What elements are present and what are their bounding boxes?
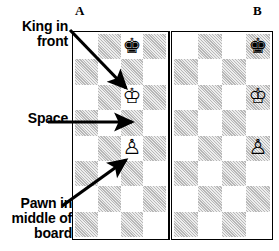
annotation-arrows <box>0 0 279 251</box>
arrow-pawn-middle <box>62 160 126 206</box>
figure-canvas: A B ♚♔♙ ♚♔♙ King in front Space Pawn in … <box>0 0 279 251</box>
arrow-king-in-front <box>70 30 126 88</box>
